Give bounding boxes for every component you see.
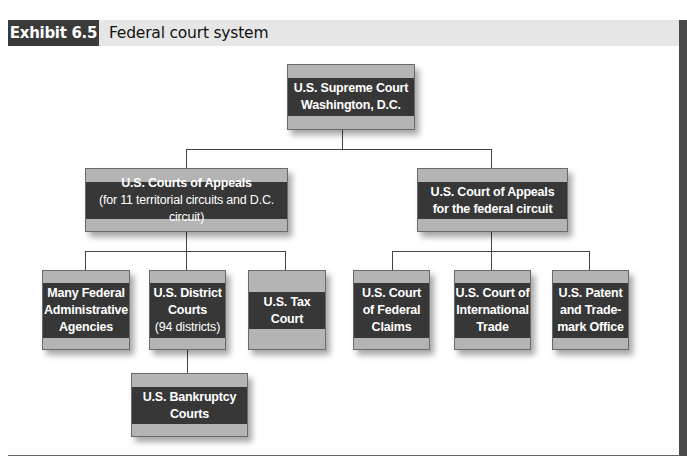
node-label-line2: for the federal circuit	[433, 201, 553, 218]
connector-level1-horizontal	[186, 149, 492, 150]
node-label-line2: Courts	[168, 302, 207, 319]
node-label-line1: U.S. Court	[362, 285, 421, 302]
node-label-line3: Claims	[372, 319, 412, 336]
page-edge-bar	[679, 20, 687, 456]
connector-to-appeals-federal	[491, 149, 492, 168]
connector-to-admin	[85, 251, 86, 270]
node-admin-agencies: Many Federal Administrative Agencies	[42, 270, 130, 350]
connector-to-trade	[491, 251, 492, 270]
node-label-line2: Administrative	[44, 302, 128, 319]
node-label-line2: (for 11 territorial circuits and D.C. ci…	[86, 192, 287, 226]
node-label-line2: Washington, D.C.	[301, 97, 401, 114]
node-label-line1: U.S. Bankruptcy	[143, 389, 237, 406]
node-label-line1: U.S. District	[153, 285, 221, 302]
connector-to-appeals-circuits	[186, 149, 187, 168]
node-label-line1: U.S. Courts of Appeals	[121, 175, 252, 192]
node-label-line1: U.S. Patent	[559, 285, 623, 302]
node-court-of-appeals-federal: U.S. Court of Appeals for the federal ci…	[417, 168, 568, 232]
node-district-courts: U.S. District Courts (94 districts)	[149, 270, 226, 350]
exhibit-title: Federal court system	[109, 20, 268, 46]
connector-to-district	[186, 251, 187, 270]
exhibit-label: Exhibit 6.5	[8, 20, 99, 46]
node-label-line2: and Trade-	[560, 302, 621, 319]
node-international-trade: U.S. Court of International Trade	[454, 270, 531, 350]
connector-district-to-bankruptcy	[187, 350, 188, 373]
node-tax-court: U.S. Tax Court	[248, 270, 326, 350]
node-label-line1: U.S. Tax	[264, 294, 311, 311]
node-bankruptcy-courts: U.S. Bankruptcy Courts	[131, 373, 248, 437]
node-patent-office: U.S. Patent and Trade- mark Office	[552, 270, 629, 350]
node-label-line2: Courts	[170, 406, 209, 423]
connector-appeals-federal-down	[491, 232, 492, 251]
node-label-line1: U.S. Court of	[456, 285, 530, 302]
node-courts-of-appeals: U.S. Courts of Appeals (for 11 territori…	[85, 168, 288, 232]
connector-to-patent	[589, 251, 590, 270]
node-label-line1: U.S. Supreme Court	[294, 80, 408, 97]
node-label-line1: U.S. Court of Appeals	[431, 184, 555, 201]
connector-appeals-circuits-down	[186, 232, 187, 251]
node-label-line3: mark Office	[557, 319, 624, 336]
bottom-rule	[8, 455, 680, 456]
connector-supreme-down	[342, 130, 343, 149]
node-federal-claims: U.S. Court of Federal Claims	[353, 270, 430, 350]
node-label-line1: Many Federal	[47, 285, 125, 302]
node-label-line3: Trade	[476, 319, 508, 336]
node-label-line2: of Federal	[363, 302, 421, 319]
node-label-line3: (94 districts)	[155, 319, 220, 336]
node-label-line3: Agencies	[59, 319, 113, 336]
connector-to-claims	[392, 251, 393, 270]
node-supreme-court: U.S. Supreme Court Washington, D.C.	[287, 64, 415, 130]
node-label-line2: Court	[271, 311, 303, 328]
connector-to-tax	[285, 251, 286, 270]
node-label-line2: International	[456, 302, 528, 319]
